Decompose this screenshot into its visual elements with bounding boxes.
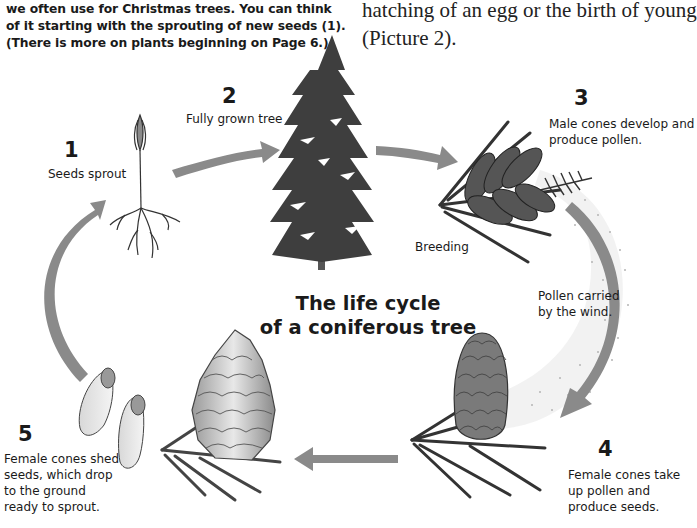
diagram-title: The life cycle of a coniferous tree [248, 292, 488, 340]
stage-1-label: Seeds sprout [48, 166, 126, 182]
stage-1-number: 1 [64, 138, 79, 162]
breeding-label: Breeding [415, 239, 469, 255]
open-pine-cone-icon [162, 330, 280, 500]
stage-3-label: Male cones develop and produce pollen. [549, 116, 694, 148]
seedling-icon [110, 115, 180, 258]
stage-5-label: Female cones shed seeds, which drop to t… [4, 451, 119, 515]
stage-3-number: 3 [574, 86, 589, 110]
stage-5-number: 5 [18, 422, 33, 446]
arrow-4-to-5 [294, 447, 398, 471]
stage-4-label: Female cones take up pollen and produce … [568, 467, 680, 515]
pollen-label: Pollen carried by the wind. [538, 288, 620, 320]
arrow-1-to-2 [172, 141, 280, 178]
stage-4-number: 4 [598, 437, 613, 461]
stage-2-number: 2 [222, 84, 237, 108]
arrow-2-to-3 [376, 146, 458, 170]
arrow-5-to-1 [44, 200, 106, 382]
conifer-tree-icon [270, 35, 374, 270]
stage-2-label: Fully grown tree [186, 111, 282, 127]
